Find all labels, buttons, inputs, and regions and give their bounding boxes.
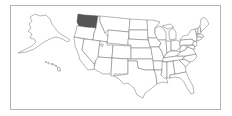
state-new-mexico [111,58,128,76]
state-florida [170,72,194,94]
state-arizona [94,57,112,74]
contiguous-us [74,14,209,98]
state-south-dakota [129,30,148,40]
state-hawaii [45,61,60,71]
state-connecticut-ri [197,37,202,41]
state-mississippi [161,62,167,78]
state-maine [200,17,209,32]
state-new-york [180,29,197,41]
us-locator-map [0,0,232,116]
state-alaska [18,14,70,53]
great-salt-lake [101,44,104,47]
state-ohio [171,40,180,51]
state-north-dakota [129,19,148,30]
state-massachusetts [197,34,204,37]
state-wyoming [107,30,129,45]
state-colorado [112,45,131,59]
state-kansas [131,48,153,59]
state-washington [77,14,98,28]
state-arkansas [153,61,163,70]
state-nebraska [128,39,151,48]
